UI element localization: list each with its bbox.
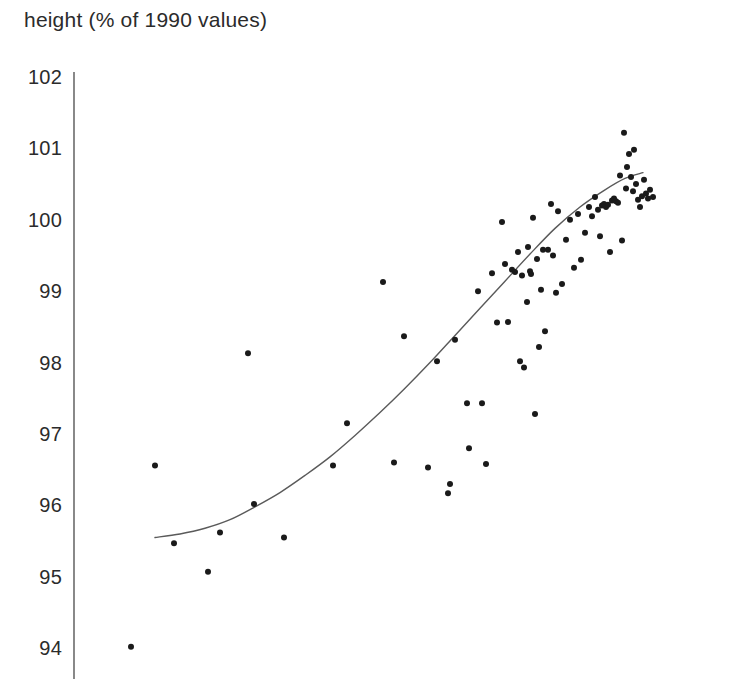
data-point — [553, 290, 559, 296]
data-point — [563, 237, 569, 243]
data-point — [586, 204, 592, 210]
data-point — [615, 200, 621, 206]
data-point — [494, 320, 500, 326]
data-point — [641, 177, 647, 183]
data-point — [626, 151, 632, 157]
data-point — [281, 535, 287, 541]
chart-figure: height (% of 1990 values) 10210110099989… — [0, 0, 751, 679]
data-point — [525, 244, 531, 250]
data-point — [499, 219, 505, 225]
data-point — [528, 271, 534, 277]
data-point — [452, 337, 458, 343]
data-point — [542, 328, 548, 334]
fitted-trend-line — [155, 173, 643, 538]
data-point — [217, 530, 223, 536]
scatter-plot-canvas — [0, 0, 751, 679]
data-point — [521, 365, 527, 371]
data-point — [545, 247, 551, 253]
data-point — [536, 344, 542, 350]
data-point — [344, 420, 350, 426]
data-point — [630, 188, 636, 194]
data-point — [607, 249, 613, 255]
data-point — [479, 400, 485, 406]
data-point — [617, 173, 623, 179]
data-point — [619, 238, 625, 244]
data-point — [464, 400, 470, 406]
data-point — [391, 460, 397, 466]
data-point — [475, 288, 481, 294]
data-point — [505, 319, 511, 325]
data-point — [578, 257, 584, 263]
data-point — [434, 358, 440, 364]
data-point — [567, 217, 573, 223]
data-point — [489, 270, 495, 276]
data-points-group — [128, 130, 656, 650]
data-point — [571, 265, 577, 271]
data-point — [559, 281, 565, 287]
data-point — [532, 411, 538, 417]
data-point — [425, 465, 431, 471]
data-point — [597, 233, 603, 239]
data-point — [550, 253, 556, 259]
data-point — [628, 174, 634, 180]
data-point — [519, 272, 525, 278]
data-point — [650, 194, 656, 200]
data-point — [445, 490, 451, 496]
data-point — [548, 201, 554, 207]
data-point — [171, 540, 177, 546]
data-point — [515, 249, 521, 255]
data-point — [502, 261, 508, 267]
data-point — [517, 358, 523, 364]
data-point — [637, 204, 643, 210]
data-point — [330, 462, 336, 468]
data-point — [538, 287, 544, 293]
data-point — [621, 130, 627, 136]
data-point — [633, 181, 639, 187]
data-point — [205, 569, 211, 575]
data-point — [647, 187, 653, 193]
data-point — [466, 445, 472, 451]
data-point — [589, 213, 595, 219]
data-point — [380, 279, 386, 285]
data-point — [624, 164, 630, 170]
data-point — [152, 462, 158, 468]
data-point — [483, 461, 489, 467]
data-point — [524, 299, 530, 305]
data-point — [575, 211, 581, 217]
data-point — [251, 501, 257, 507]
data-point — [245, 350, 251, 356]
data-point — [534, 256, 540, 262]
data-point — [582, 230, 588, 236]
data-point — [592, 194, 598, 200]
data-point — [512, 269, 518, 275]
data-point — [623, 185, 629, 191]
data-point — [128, 644, 134, 650]
data-point — [401, 333, 407, 339]
data-point — [530, 215, 536, 221]
data-point — [555, 208, 561, 214]
data-point — [447, 481, 453, 487]
data-point — [631, 147, 637, 153]
